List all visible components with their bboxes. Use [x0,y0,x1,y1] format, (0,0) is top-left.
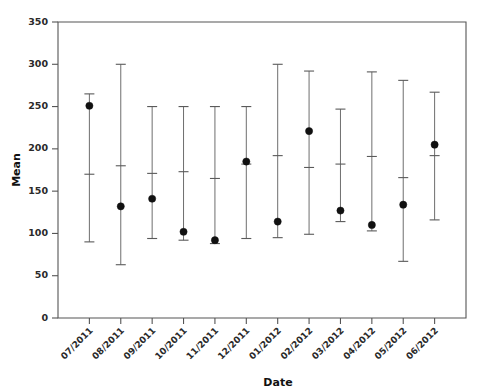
mean-point-marker [400,201,407,208]
plot-frame [58,22,466,318]
mean-point-marker [305,127,312,134]
error-bar-group [179,107,189,241]
error-bar-group [304,71,314,234]
mean-point-marker [274,218,281,225]
mean-point-marker [243,158,250,165]
error-bar-group [367,72,377,231]
x-tick-label: 02/2012 [279,325,315,361]
x-tick-label: 10/2011 [153,325,189,361]
chart-container: 050100150200250300350 07/201108/201109/2… [0,0,486,392]
y-tick-label: 200 [28,142,48,153]
mean-point-marker [368,221,375,228]
mean-point-marker [180,228,187,235]
y-axis-title: Mean [10,153,23,187]
mean-point-marker [86,102,93,109]
error-bar-group [116,64,126,264]
mean-point-marker [211,237,218,244]
x-tick-label: 04/2012 [341,325,377,361]
x-axis-title: Date [263,376,292,389]
error-bar-chart: 050100150200250300350 07/201108/201109/2… [0,0,486,392]
mean-point-marker [149,195,156,202]
x-tick-label: 03/2012 [310,325,346,361]
error-bar-group [273,64,283,237]
x-tick-label: 08/2011 [90,325,126,361]
error-bar-group [210,107,220,244]
x-tick-label: 01/2012 [247,325,283,361]
y-tick-label: 300 [28,58,48,69]
x-axis: 07/201108/201109/201110/201111/201112/20… [59,318,440,361]
y-tick-label: 350 [28,16,48,27]
x-tick-label: 12/2011 [216,325,252,361]
y-axis: 050100150200250300350 [28,16,58,323]
y-tick-label: 250 [28,100,48,111]
x-tick-label: 07/2011 [59,325,95,361]
mean-point-marker [117,203,124,210]
error-bar-group [430,92,440,220]
x-tick-label: 09/2011 [122,325,158,361]
y-tick-label: 150 [28,185,48,196]
data-series [84,64,439,264]
y-tick-label: 50 [35,269,49,280]
y-tick-label: 100 [28,227,48,238]
error-bar-group [84,94,94,242]
error-bar-group [147,107,157,239]
mean-point-marker [431,141,438,148]
error-bar-group [241,107,251,239]
y-tick-label: 0 [41,312,48,323]
mean-point-marker [337,207,344,214]
error-bar-group [335,109,345,221]
x-tick-label: 06/2012 [404,325,440,361]
x-tick-label: 05/2012 [373,325,409,361]
error-bar-group [398,80,408,261]
x-tick-label: 11/2011 [184,325,220,361]
